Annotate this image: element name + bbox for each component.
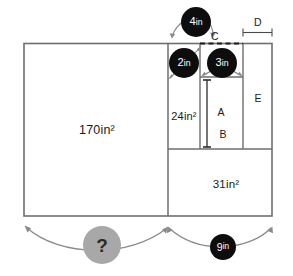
badge-9in: 9in — [210, 234, 236, 260]
dimension-line-d — [243, 29, 272, 37]
badge-question: ? — [83, 226, 121, 264]
geometry-diagram: 170in² 24in² 31in² A B E C D 4in 2in 3in… — [0, 0, 293, 276]
dimension-label-c: C — [211, 30, 219, 42]
segment-label-e: E — [254, 92, 261, 104]
segment-label-b: B — [219, 128, 226, 140]
dimension-line-ab — [203, 80, 211, 147]
badge-3in: 3in — [207, 48, 237, 78]
segment-label-a: A — [217, 106, 224, 118]
badge-4in: 4in — [181, 7, 211, 37]
region-label-31: 31in² — [213, 178, 240, 190]
diagram-canvas — [0, 0, 293, 276]
badge-2in: 2in — [169, 48, 199, 78]
region-label-24: 24in² — [171, 110, 196, 122]
region-label-170: 170in² — [79, 123, 115, 137]
dimension-label-d: D — [254, 16, 262, 28]
